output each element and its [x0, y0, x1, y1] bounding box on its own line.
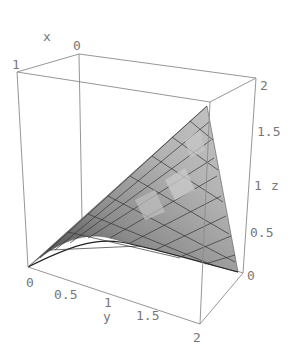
x-axis-title: x [43, 29, 51, 44]
x-tick-1: 1 [12, 57, 20, 72]
z-tick-0: 0 [247, 268, 255, 283]
y-tick-0-5: 0.5 [54, 287, 77, 302]
x-tick-0: 0 [73, 38, 81, 53]
y-axis-labels: 0 0.5 1 y 1.5 2 [26, 275, 201, 345]
y-tick-2: 2 [193, 330, 201, 345]
z-tick-1-5: 1.5 [257, 124, 280, 139]
y-tick-1-5: 1.5 [136, 308, 159, 323]
z-tick-0-5: 0.5 [250, 225, 273, 240]
y-axis-title: y [103, 309, 111, 324]
z-axis-title: z [271, 178, 279, 193]
y-tick-0: 0 [26, 275, 34, 290]
z-tick-1: 1 [254, 178, 262, 193]
z-axis-labels: 2 1.5 1 z 0.5 0 [247, 78, 280, 283]
z-tick-2: 2 [260, 78, 268, 93]
y-tick-1: 1 [104, 295, 112, 310]
x-axis-labels: x 0 1 [12, 29, 81, 72]
surface-plot-3d: x 0 1 2 1.5 1 z 0.5 0 0 0.5 1 y 1.5 2 [0, 0, 295, 357]
